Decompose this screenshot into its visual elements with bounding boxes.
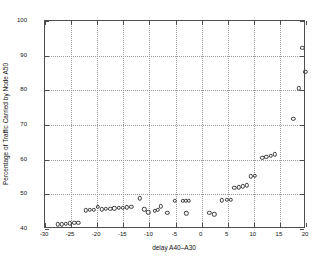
- x-axis-tick: [202, 21, 203, 25]
- y-gridline: [45, 90, 304, 91]
- x-axis-tick-label: 0: [199, 231, 202, 238]
- data-point: [272, 152, 276, 156]
- x-axis-tick-label: 15: [276, 231, 283, 238]
- x-axis-tick: [123, 21, 124, 25]
- y-axis-tick: [300, 90, 304, 91]
- y-axis-tick: [45, 21, 49, 22]
- x-axis-title: delay A40–A30: [152, 244, 196, 251]
- x-axis-tick-label: 5: [225, 231, 228, 238]
- y-gridline: [45, 194, 304, 195]
- x-axis-tick-label: -25: [66, 231, 75, 238]
- data-point: [253, 173, 257, 177]
- y-axis-tick: [45, 56, 49, 57]
- y-axis-tick: [300, 21, 304, 22]
- y-axis-tick: [45, 125, 49, 126]
- y-gridline: [45, 125, 304, 126]
- y-axis-tick: [300, 229, 304, 230]
- x-axis-tick-label: -5: [172, 231, 177, 238]
- x-axis-tick-label: -20: [92, 231, 101, 238]
- data-point: [187, 198, 191, 202]
- data-point: [300, 45, 304, 49]
- x-gridline: [176, 21, 177, 227]
- y-axis-tick: [45, 90, 49, 91]
- y-axis-tick: [300, 160, 304, 161]
- x-axis-tick: [228, 21, 229, 25]
- data-point: [184, 211, 188, 215]
- x-axis-tick-label: 10: [249, 231, 256, 238]
- y-axis-tick-label: 100: [17, 17, 27, 24]
- y-axis-tick: [300, 125, 304, 126]
- y-axis-title: Percentage of Traffic Carried by Node A5…: [2, 63, 9, 185]
- y-axis-tick-label: 70: [20, 121, 27, 128]
- y-axis-tick: [45, 229, 49, 230]
- x-axis-tick-label: -30: [40, 231, 49, 238]
- data-point: [245, 183, 249, 187]
- data-point: [129, 205, 133, 209]
- x-gridline: [123, 21, 124, 227]
- y-axis-tick-label: 40: [20, 225, 27, 232]
- x-axis-tick-label: 20: [302, 231, 309, 238]
- x-axis-tick: [176, 21, 177, 25]
- y-gridline: [45, 160, 304, 161]
- x-axis-tick: [45, 223, 46, 227]
- x-axis-tick: [149, 223, 150, 227]
- y-gridline: [45, 56, 304, 57]
- x-axis-tick-label: -10: [144, 231, 153, 238]
- x-gridline: [254, 21, 255, 227]
- x-gridline: [149, 21, 150, 227]
- x-gridline: [71, 21, 72, 227]
- x-axis-tick: [306, 21, 307, 25]
- x-axis-tick: [228, 223, 229, 227]
- x-gridline: [202, 21, 203, 227]
- data-point: [291, 117, 295, 121]
- y-axis-tick: [45, 194, 49, 195]
- x-axis-tick: [97, 223, 98, 227]
- x-axis-tick: [254, 21, 255, 25]
- x-axis-tick: [254, 223, 255, 227]
- y-axis-tick-label: 50: [20, 190, 27, 197]
- x-axis-tick: [306, 223, 307, 227]
- y-axis-tick: [300, 56, 304, 57]
- data-point: [173, 199, 177, 203]
- x-gridline: [280, 21, 281, 227]
- y-axis-tick: [45, 160, 49, 161]
- y-axis-tick-label: 80: [20, 86, 27, 93]
- data-point: [303, 70, 307, 74]
- y-axis-tick-label: 60: [20, 155, 27, 162]
- x-axis-tick: [280, 223, 281, 227]
- data-point: [212, 212, 216, 216]
- data-point: [159, 204, 163, 208]
- plot-area: [44, 20, 305, 228]
- data-point: [138, 196, 142, 200]
- x-axis-tick: [97, 21, 98, 25]
- x-axis-tick: [202, 223, 203, 227]
- data-point: [229, 197, 233, 201]
- x-axis-tick: [123, 223, 124, 227]
- x-gridline: [97, 21, 98, 227]
- x-axis-tick: [176, 223, 177, 227]
- data-point: [165, 211, 169, 215]
- y-axis-tick: [300, 194, 304, 195]
- x-axis-tick: [149, 21, 150, 25]
- data-point: [76, 221, 80, 225]
- x-axis-tick: [71, 21, 72, 25]
- x-gridline: [228, 21, 229, 227]
- y-axis-tick-label: 90: [20, 51, 27, 58]
- x-axis-tick-label: -15: [118, 231, 127, 238]
- scatter-plot-figure: Percentage of Traffic Carried by Node A5…: [0, 0, 334, 263]
- data-point: [156, 207, 160, 211]
- x-axis-tick: [280, 21, 281, 25]
